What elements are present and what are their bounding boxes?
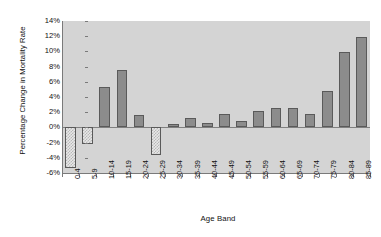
x-axis-title: Age Band [62, 214, 374, 223]
plot-area [62, 21, 370, 173]
x-tick-label: 45-49 [228, 160, 236, 179]
x-tick-label: 25-29 [159, 160, 167, 179]
y-tick-mark [85, 127, 88, 128]
x-tick-label: 70-74 [313, 160, 321, 179]
y-tick-mark [85, 21, 88, 22]
x-tick-label: 35-39 [194, 160, 202, 179]
x-tick-label: 20-24 [142, 160, 150, 179]
y-tick-mark [85, 36, 88, 37]
x-tick-label: 5-9 [91, 168, 99, 179]
y-tick-mark [85, 158, 88, 159]
y-tick-mark [85, 112, 88, 113]
bar [305, 114, 316, 128]
x-tick-label: 75-79 [330, 160, 338, 179]
bar [134, 115, 145, 127]
grid-band [62, 127, 370, 142]
bar [202, 123, 213, 128]
grid-band [62, 36, 370, 51]
bar [99, 87, 110, 127]
bar [117, 70, 128, 127]
y-tick-mark [85, 51, 88, 52]
bar [339, 52, 350, 127]
y-tick-mark [85, 67, 88, 68]
bar [236, 121, 247, 127]
bar [271, 108, 282, 128]
bar [288, 108, 299, 128]
y-tick-label: 2% [30, 108, 60, 116]
y-tick-label: 12% [30, 32, 60, 40]
y-tick-label: 8% [30, 63, 60, 71]
bar [65, 127, 76, 167]
bar [82, 127, 93, 144]
x-tick-mark [62, 174, 63, 177]
chart-container: Percentage Change in Mortality Rate 14%1… [0, 0, 381, 237]
bar [322, 91, 333, 127]
bar [151, 127, 162, 154]
x-tick-label: 30-34 [176, 160, 184, 179]
x-tick-label: 85-89 [365, 160, 373, 179]
y-tick-label: -6% [30, 169, 60, 177]
bar [168, 124, 179, 127]
y-tick-label: 10% [30, 47, 60, 55]
y-tick-label: 6% [30, 78, 60, 86]
bar [219, 114, 230, 128]
x-tick-label: 80-84 [348, 160, 356, 179]
bar [356, 37, 367, 127]
x-tick-label: 10-14 [108, 160, 116, 179]
y-tick-label: 4% [30, 93, 60, 101]
grid-band [62, 143, 370, 158]
y-tick-label: 0% [30, 123, 60, 131]
y-axis-ticks: 14%12%10%8%6%4%2%0%-2%-4%-6% [26, 21, 60, 173]
y-tick-mark [85, 82, 88, 83]
x-tick-label: 65-69 [296, 160, 304, 179]
x-tick-label: 40-44 [211, 160, 219, 179]
y-tick-label: -2% [30, 139, 60, 147]
grid-band [62, 67, 370, 82]
grid-band [62, 51, 370, 66]
x-tick-label: 50-54 [245, 160, 253, 179]
zero-baseline [62, 127, 370, 128]
bar [185, 118, 196, 128]
bar [253, 111, 264, 127]
y-tick-mark [85, 143, 88, 144]
x-tick-label: 60-64 [279, 160, 287, 179]
y-tick-mark [85, 97, 88, 98]
x-tick-label: 15-19 [125, 160, 133, 179]
grid-band [62, 21, 370, 36]
x-tick-label: 0-4 [74, 168, 82, 179]
y-tick-label: 14% [30, 17, 60, 25]
y-tick-label: -4% [30, 154, 60, 162]
x-tick-label: 55-59 [262, 160, 270, 179]
y-axis-line [62, 21, 63, 174]
